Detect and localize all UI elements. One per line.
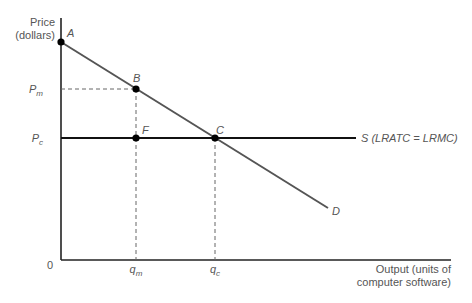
qm-label: qm <box>130 263 143 278</box>
point-c-label: C <box>216 124 224 136</box>
pc-label: Pc <box>32 132 43 147</box>
point-b <box>132 85 139 92</box>
point-f <box>132 134 139 141</box>
monopoly-diagram: Price (dollars) Output (units of compute… <box>0 0 472 303</box>
x-axis-label-line2: computer software) <box>357 276 451 288</box>
qc-label: qc <box>210 263 220 278</box>
y-axis-label-line2: (dollars) <box>15 29 55 41</box>
point-a <box>57 38 64 45</box>
demand-line <box>61 42 328 208</box>
x-axis-label-line1: Output (units of <box>376 263 452 275</box>
point-a-label: A <box>66 27 74 39</box>
y-axis-label-line1: Price <box>30 16 55 28</box>
demand-label: D <box>332 205 340 217</box>
pm-label: Pm <box>29 83 43 98</box>
supply-label: S (LRATC = LRMC) <box>361 132 458 144</box>
point-b-label: B <box>133 72 140 84</box>
point-f-label: F <box>142 124 150 136</box>
origin-label: 0 <box>47 259 53 271</box>
